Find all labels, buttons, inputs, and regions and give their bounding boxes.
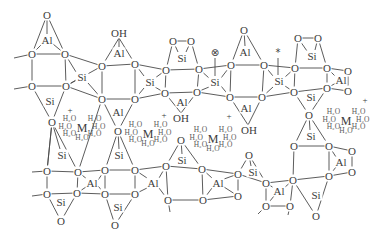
- oxygen-atom: O: [61, 48, 70, 60]
- oxygen-atom: O: [74, 166, 83, 178]
- silicon-atom: Si: [113, 149, 126, 161]
- silicon-atom: Si: [176, 154, 189, 166]
- svg-text:Si: Si: [306, 91, 315, 103]
- oxygen-atom: O: [290, 140, 299, 152]
- svg-text:O: O: [234, 168, 242, 180]
- oxygen-atom: O: [227, 59, 236, 71]
- oxygen-atom: O: [98, 60, 107, 72]
- aluminium-atom: Al: [86, 177, 99, 189]
- svg-text:Si: Si: [307, 50, 316, 62]
- svg-text:Al: Al: [87, 177, 98, 189]
- oxygen-atom: O: [325, 170, 334, 182]
- oxygen-atom: O: [348, 145, 357, 157]
- svg-text:O: O: [57, 215, 65, 227]
- aluminium-atom: Al: [212, 177, 225, 189]
- svg-text:Si: Si: [274, 75, 283, 87]
- oxygen-atom: O: [294, 32, 303, 44]
- water-molecule: H₂O: [352, 122, 366, 131]
- aluminium-atom: Al: [335, 156, 348, 168]
- svg-text:O: O: [169, 35, 177, 47]
- svg-text:O: O: [28, 80, 36, 92]
- svg-text:O: O: [43, 188, 51, 200]
- svg-text:O: O: [291, 62, 299, 74]
- oxygen-atom: O: [131, 188, 140, 200]
- oxygen-atom: O: [226, 91, 235, 103]
- svg-text:O: O: [187, 35, 195, 47]
- oxygen-atom: O: [101, 188, 110, 200]
- svg-text:O: O: [323, 82, 331, 94]
- svg-text:O: O: [262, 200, 270, 212]
- oxygen-atom: O: [73, 187, 82, 199]
- oxygen-atom: O: [262, 177, 271, 189]
- svg-text:O: O: [131, 58, 139, 70]
- silicon-atom: Si: [310, 189, 323, 201]
- svg-text:O: O: [101, 188, 109, 200]
- svg-text:O: O: [177, 134, 185, 146]
- water-molecule: H₂O: [75, 133, 89, 142]
- svg-text:O: O: [198, 163, 206, 175]
- svg-text:O: O: [348, 166, 356, 178]
- oxygen-atom: O: [114, 125, 123, 137]
- svg-text:Si: Si: [45, 95, 54, 107]
- svg-text:O: O: [131, 188, 139, 200]
- hydroxyl-group: OH: [110, 27, 128, 39]
- svg-text:Al: Al: [213, 177, 224, 189]
- oxygen-atom: O: [169, 35, 178, 47]
- svg-text:O: O: [344, 85, 352, 97]
- silicon-atom: Si: [305, 130, 318, 142]
- svg-text:O: O: [227, 59, 235, 71]
- svg-text:O: O: [325, 140, 333, 152]
- positive-charge: +: [161, 110, 166, 120]
- svg-text:Al: Al: [274, 185, 285, 197]
- oxygen-atom: O: [28, 48, 37, 60]
- silicon-atom: Si: [112, 201, 125, 213]
- oxygen-atom: O: [258, 91, 267, 103]
- aluminium-atom: Al: [113, 47, 126, 59]
- silicon-atom: Si: [55, 196, 68, 208]
- svg-text:O: O: [28, 48, 36, 60]
- svg-text:Si: Si: [145, 76, 154, 88]
- oxygen-atom: O: [245, 149, 254, 161]
- svg-text:O: O: [258, 91, 266, 103]
- svg-text:Al: Al: [336, 156, 347, 168]
- silicon-atom: Si: [44, 95, 57, 107]
- svg-text:O: O: [161, 87, 169, 99]
- oxygen-atom: O: [177, 134, 186, 146]
- svg-text:Al: Al: [177, 96, 188, 108]
- silicon-atom: Si: [76, 71, 89, 83]
- silicon-atom: Si: [209, 76, 222, 88]
- aluminium-atom: Al: [41, 34, 54, 46]
- svg-text:O: O: [286, 200, 294, 212]
- oxygen-atom: O: [234, 190, 243, 202]
- oxygen-atom: O: [43, 188, 52, 200]
- svg-text:O: O: [348, 145, 356, 157]
- silicon-atom: Si: [273, 75, 286, 87]
- silicon-atom: Si: [247, 166, 260, 178]
- svg-text:O: O: [290, 140, 298, 152]
- oxygen-atom: O: [312, 210, 321, 222]
- oxygen-atom: O: [291, 62, 300, 74]
- oxygen-atom: O: [195, 63, 204, 75]
- oxygen-atom: O: [43, 9, 52, 21]
- svg-text:O: O: [101, 164, 109, 176]
- oxygen-atom: O: [162, 64, 171, 76]
- hydrated-cation-cage: M+H₂OH₂OH₂OH₂OH₂OH₂OH₂O: [124, 110, 172, 148]
- aluminium-atom: Al: [147, 177, 160, 189]
- oxygen-atom: O: [131, 58, 140, 70]
- silicon-atom: Si: [305, 91, 318, 103]
- svg-text:O: O: [162, 160, 170, 172]
- oxygen-atom: O: [101, 164, 110, 176]
- svg-text:O: O: [43, 165, 51, 177]
- silicon-atom: Si: [144, 76, 157, 88]
- silicon-atom: Si: [176, 52, 189, 64]
- svg-text:O: O: [193, 86, 201, 98]
- atoms: OAlOOSiOOSiOOHAlOOSiOOAlOOSiOOSiOOAlOHOA…: [28, 9, 357, 231]
- svg-text:O: O: [323, 62, 331, 74]
- svg-text:OH: OH: [173, 112, 189, 124]
- oxygen-atom: O: [164, 194, 173, 206]
- svg-text:O: O: [162, 64, 170, 76]
- oxygen-atom: O: [198, 163, 207, 175]
- svg-text:Al: Al: [113, 106, 124, 118]
- oxygen-atom: O: [305, 109, 314, 121]
- oxygen-atom: O: [290, 86, 299, 98]
